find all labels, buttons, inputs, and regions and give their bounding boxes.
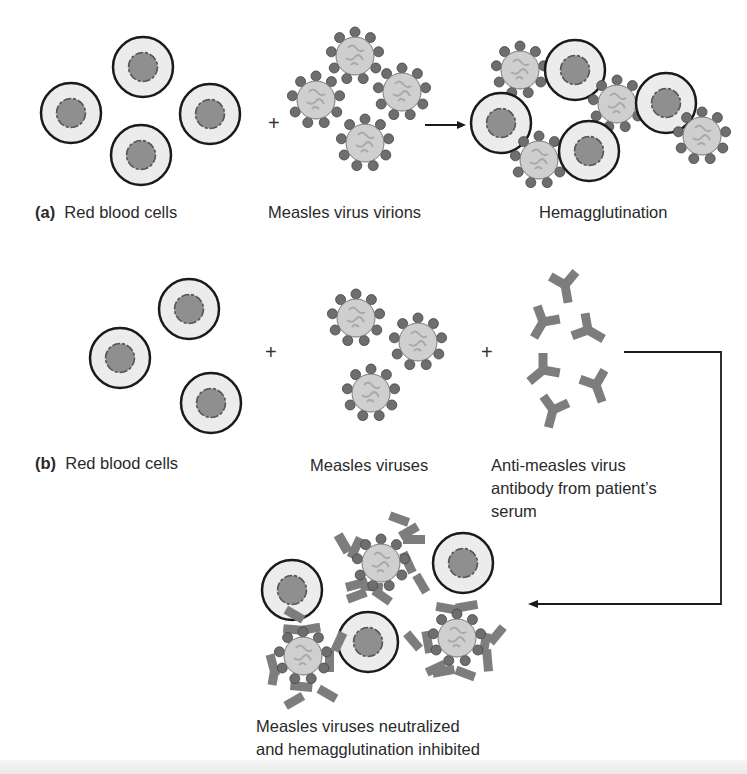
panel-b-antibody-label-3: serum	[491, 500, 537, 522]
neutralized-virus	[266, 606, 348, 710]
panel-b-virus-group	[327, 289, 446, 421]
panel-b-rbc-group	[90, 279, 241, 433]
panel-a-tag: (a)	[35, 203, 55, 221]
panel-a-virion-label: Measles virus virions	[268, 201, 421, 223]
measles-virus	[342, 364, 399, 421]
panel-b-plus-sign-1: +	[265, 342, 277, 362]
measles-virion	[673, 107, 730, 164]
measles-virion	[491, 41, 548, 98]
red-blood-cell	[41, 83, 101, 143]
red-blood-cell	[338, 612, 398, 672]
red-blood-cell	[181, 373, 241, 433]
panel-b-tag: (b)	[35, 454, 56, 472]
measles-virus	[389, 313, 446, 370]
hemagglutination-diagram	[0, 0, 747, 774]
antibody	[520, 302, 564, 346]
panel-a-plus-sign: +	[268, 113, 280, 133]
panel-b-antibody-label-2: antibody from patient’s	[491, 477, 657, 499]
panel-a-rbc-label: (a) Red blood cells	[35, 201, 177, 223]
panel-b-virus-label: Measles viruses	[310, 454, 428, 476]
panel-a-result-label: Hemagglutination	[539, 201, 667, 223]
antibody	[568, 309, 612, 353]
panel-b-rbc-label: (b) Red blood cells	[35, 452, 178, 474]
measles-virion	[326, 27, 383, 84]
page-bottom-edge	[0, 760, 747, 774]
measles-virion	[287, 71, 344, 128]
red-blood-cell	[90, 328, 150, 388]
measles-virus	[327, 289, 384, 346]
measles-virion	[373, 63, 430, 120]
panel-b-result-label-2: and hemagglutination inhibited	[256, 738, 480, 760]
neutralized-result-group	[262, 511, 507, 709]
red-blood-cell	[433, 533, 493, 593]
panel-b-antibody-label-1: Anti-measles virus	[491, 454, 626, 476]
panel-b-plus-sign-2: +	[481, 342, 493, 362]
red-blood-cell	[159, 279, 219, 339]
antibody	[519, 349, 564, 394]
red-blood-cell	[545, 40, 605, 100]
panel-a-virion-group	[287, 27, 430, 171]
neutralized-virus	[403, 600, 506, 681]
red-blood-cell	[111, 125, 171, 185]
antibody	[576, 366, 617, 407]
red-blood-cell	[180, 84, 240, 144]
hemagglutination-cluster	[471, 40, 731, 188]
panel-a-rbc-text: Red blood cells	[64, 203, 177, 221]
panel-b-antibody-group	[519, 268, 617, 431]
measles-virion	[336, 114, 393, 171]
red-blood-cell	[113, 37, 173, 97]
panel-b-result-label-1: Measles viruses neutralized	[256, 715, 460, 737]
antibody	[547, 268, 584, 305]
red-blood-cell	[559, 121, 619, 181]
panel-b-rbc-text: Red blood cells	[65, 454, 178, 472]
antibody	[533, 392, 572, 432]
neutralized-virus	[334, 511, 430, 605]
reaction-arrow	[425, 121, 466, 129]
panel-a-rbc-group	[41, 37, 240, 185]
